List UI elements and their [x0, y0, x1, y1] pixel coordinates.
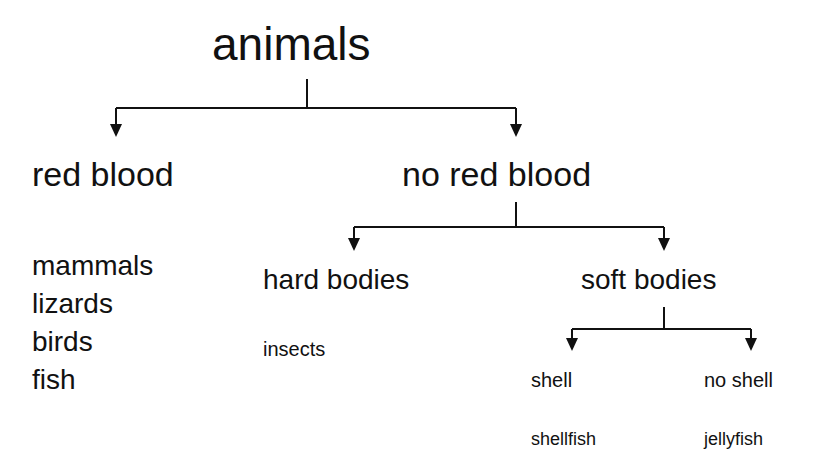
example-insects: insects [263, 339, 325, 359]
node-no-shell: no shell [704, 370, 773, 390]
root-node-label: animals [212, 21, 371, 67]
node-shell: shell [531, 370, 572, 390]
example-item: lizards [32, 285, 153, 323]
node-hard-bodies: hard bodies [263, 266, 409, 294]
arrow-down-icon [110, 124, 122, 137]
example-item: fish [32, 361, 153, 399]
example-item: birds [32, 323, 153, 361]
example-item: mammals [32, 247, 153, 285]
node-no-red-blood: no red blood [402, 157, 591, 191]
arrow-down-icon [658, 238, 670, 251]
example-jellyfish: jellyfish [704, 430, 763, 448]
example-shellfish: shellfish [531, 430, 596, 448]
arrow-down-icon [510, 124, 522, 137]
diagram-canvas: animals red blood no red blood mammals l… [0, 0, 832, 467]
arrow-down-icon [566, 338, 578, 351]
node-soft-bodies: soft bodies [581, 266, 716, 294]
arrow-down-icon [348, 238, 360, 251]
arrow-down-icon [745, 338, 757, 351]
red-blood-examples: mammals lizards birds fish [32, 247, 153, 399]
node-red-blood: red blood [32, 157, 174, 191]
